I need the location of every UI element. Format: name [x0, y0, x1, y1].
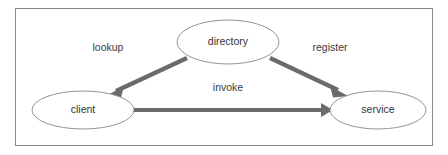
node-service-label: service: [361, 103, 394, 115]
edge-register-label: register: [312, 41, 348, 53]
architecture-diagram: directory client service lookup register…: [0, 0, 448, 155]
diagram-canvas: directory client service lookup register…: [0, 0, 448, 155]
node-directory-label: directory: [208, 35, 249, 47]
node-client-label: client: [71, 103, 96, 115]
node-directory[interactable]: directory: [177, 20, 279, 64]
edge-lookup-label: lookup: [93, 41, 124, 53]
node-service[interactable]: service: [330, 91, 426, 129]
edge-invoke-label: invoke: [213, 81, 244, 93]
node-client[interactable]: client: [32, 91, 134, 129]
